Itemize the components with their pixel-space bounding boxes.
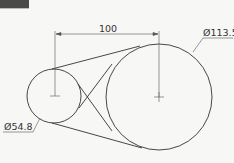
center-distance-label: 100 — [99, 24, 117, 34]
large-diameter-label: Ø113.5 — [203, 28, 234, 38]
small-diameter-label: Ø54.8 — [4, 122, 33, 132]
outer-belt-bottom — [52, 123, 142, 148]
leader-small — [33, 118, 40, 132]
outer-belt-top — [52, 46, 140, 69]
leader-large — [193, 38, 203, 52]
